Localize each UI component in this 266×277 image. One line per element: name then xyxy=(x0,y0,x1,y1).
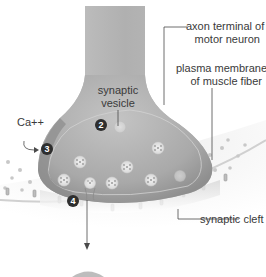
axon-terminal-label-line1: axon terminal of xyxy=(186,20,260,33)
synaptic-vesicle xyxy=(121,161,134,174)
axon-terminal-label-line2: motor neuron xyxy=(186,33,260,46)
synaptic-vesicle xyxy=(58,174,71,187)
synaptic-vesicle xyxy=(152,142,165,155)
synaptic-vesicle xyxy=(74,156,87,169)
calcium-arrowhead xyxy=(34,147,39,153)
calcium-ion-label: Ca++ xyxy=(17,116,44,129)
signal-arrowhead xyxy=(84,243,90,250)
synaptic-cleft-label: synaptic cleft xyxy=(200,213,264,226)
synaptic-vesicle xyxy=(174,170,186,182)
step-marker-3: 3 xyxy=(41,143,53,155)
synaptic-vesicle xyxy=(106,177,119,190)
synaptic-vesicle-label: synaptic vesicle xyxy=(96,84,140,110)
axon-terminal-label: axon terminal of motor neuron xyxy=(186,20,260,46)
synaptic-vesicle-label-line2: vesicle xyxy=(96,97,140,110)
synaptic-vesicle-label-line1: synaptic xyxy=(96,84,140,97)
plasma-membrane-label: plasma membrane of muscle fiber xyxy=(176,62,262,88)
plasma-membrane-label-line1: plasma membrane xyxy=(176,62,262,75)
synaptic-vesicle xyxy=(145,174,158,187)
step-marker-4: 4 xyxy=(67,195,79,207)
receptor-dome xyxy=(72,272,104,277)
calcium-arrow xyxy=(24,141,34,150)
plasma-membrane-label-line2: of muscle fiber xyxy=(176,75,262,88)
step-marker-2: 2 xyxy=(95,119,107,131)
synaptic-vesicle xyxy=(114,121,126,133)
